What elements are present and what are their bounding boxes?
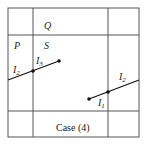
segment-2-intersection-point [106,90,110,94]
label-segment-1-left: I2 [12,64,20,77]
case-4-diagram: Q P S I2 I3 I2 I1 Case (4) [0,0,148,146]
label-segment-2-lower: I1 [97,97,105,110]
segment-2 [89,80,139,99]
segment-2-endpoint [87,97,91,101]
label-segment-1-right: I3 [35,55,43,68]
label-segment-2-upper: I2 [118,71,126,84]
label-s: S [44,40,49,51]
segment-1-endpoint [57,59,61,63]
caption: Case (4) [56,122,90,134]
segment-1-intersection-point [31,69,35,73]
label-p: P [13,40,20,51]
label-q: Q [44,20,52,31]
